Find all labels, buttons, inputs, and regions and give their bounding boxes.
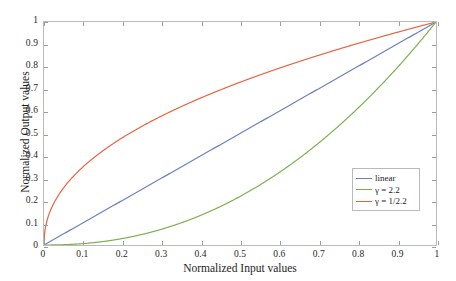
y-tick (432, 135, 436, 136)
x-tick (83, 22, 84, 26)
x-tick-label: 0.9 (383, 249, 413, 260)
legend-item-label: linear (375, 173, 396, 183)
legend-item: γ = 2.2 (356, 184, 415, 195)
x-tick-label: 0.2 (107, 249, 137, 260)
x-tick-label: 0.5 (225, 249, 255, 260)
y-tick (432, 180, 436, 181)
y-tick (44, 45, 48, 46)
y-tick (432, 45, 436, 46)
curves-svg (44, 22, 436, 245)
y-tick (432, 67, 436, 68)
x-tick (280, 241, 281, 245)
y-tick (44, 202, 48, 203)
x-tick (399, 22, 400, 26)
y-tick (44, 180, 48, 181)
y-tick (432, 112, 436, 113)
x-tick (123, 22, 124, 26)
x-tick (162, 22, 163, 26)
x-tick (438, 22, 439, 26)
x-tick (320, 22, 321, 26)
legend: linearγ = 2.2γ = 1/2.2 (352, 168, 420, 211)
legend-item: γ = 1/2.2 (356, 196, 415, 207)
y-axis-label: Normalized Output values (19, 37, 31, 227)
y-tick (44, 90, 48, 91)
y-tick (432, 22, 436, 23)
x-tick (359, 22, 360, 26)
y-tick (432, 247, 436, 248)
x-tick-label: 0.6 (264, 249, 294, 260)
legend-item-label: γ = 2.2 (375, 185, 400, 195)
x-axis-label: Normalized Input values (43, 262, 437, 274)
y-tick (432, 225, 436, 226)
x-tick-label: 0.8 (343, 249, 373, 260)
plot-area (43, 21, 437, 246)
y-tick (44, 112, 48, 113)
y-tick (44, 225, 48, 226)
y-tick (432, 202, 436, 203)
y-tick (432, 157, 436, 158)
x-tick-label: 1 (422, 249, 452, 260)
x-tick (83, 241, 84, 245)
x-tick (241, 241, 242, 245)
y-tick (44, 135, 48, 136)
legend-item: linear (356, 173, 415, 184)
curve-linear (44, 22, 436, 245)
gamma-curve-chart: 00.10.20.30.40.50.60.70.80.91 00.10.20.3… (0, 0, 456, 281)
x-tick (44, 241, 45, 245)
y-tick (44, 247, 48, 248)
x-tick-label: 0.7 (304, 249, 334, 260)
y-tick (44, 157, 48, 158)
x-tick (399, 241, 400, 245)
y-tick (432, 90, 436, 91)
legend-item-label: γ = 1/2.2 (375, 196, 407, 206)
legend-swatch-icon (356, 201, 372, 202)
y-tick-label: 1 (8, 15, 38, 26)
y-tick (44, 22, 48, 23)
y-tick (44, 67, 48, 68)
x-tick (241, 22, 242, 26)
legend-swatch-icon (356, 189, 372, 190)
legend-swatch-icon (356, 178, 372, 179)
x-tick (280, 22, 281, 26)
x-tick (202, 241, 203, 245)
y-tick-label: 0 (8, 240, 38, 251)
x-tick (202, 22, 203, 26)
x-tick-label: 0.4 (186, 249, 216, 260)
x-tick-label: 0.3 (146, 249, 176, 260)
x-tick (359, 241, 360, 245)
x-tick (438, 241, 439, 245)
x-tick-label: 0.1 (67, 249, 97, 260)
x-tick (162, 241, 163, 245)
x-tick (123, 241, 124, 245)
x-tick (320, 241, 321, 245)
